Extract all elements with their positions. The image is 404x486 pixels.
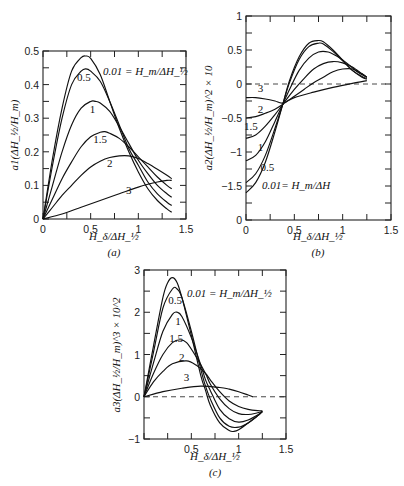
y-axis-label: a2(ΔH_½/H_m)^2 × 10 — [202, 65, 215, 170]
curve-label: 1.5 — [93, 133, 107, 145]
y-tick-label: 0 — [33, 213, 39, 225]
y-tick-label: −1 — [128, 433, 140, 445]
curve-label: 3 — [258, 82, 264, 94]
series-curve-1.5 — [43, 132, 172, 219]
y-tick-label: 0.5 — [227, 44, 242, 56]
y-tick-label: 0 — [134, 391, 140, 403]
curve-label: 1.5 — [169, 332, 183, 344]
panel-b: 00.511.510.50−0.5−1−1.50321.510.50.01= H… — [202, 10, 398, 259]
curve-label: 0.5 — [168, 294, 182, 306]
series-curve-3 — [144, 386, 253, 397]
y-tick-label: 1 — [134, 349, 140, 361]
x-tick-label: 1.5 — [384, 224, 399, 236]
y-tick-label: 0 — [236, 214, 242, 226]
panel-caption: (a) — [108, 246, 121, 259]
legend-annotation: 0.01 = H_m/ΔH_½ — [103, 65, 188, 77]
y-tick-label: 0.2 — [24, 146, 39, 158]
figure: 00.511.500.10.20.30.40.50.511.5230.01 = … — [0, 0, 404, 486]
curve-label: 2 — [107, 157, 113, 169]
y-tick-label: 1 — [236, 10, 242, 22]
x-tick-label: 0 — [243, 224, 249, 236]
x-axis-label: H_δ/ΔH_½ — [189, 450, 240, 462]
x-tick-label: 1.5 — [179, 223, 194, 235]
series-curve-3 — [43, 180, 172, 219]
curve-label: 1 — [175, 315, 181, 327]
x-tick-label: 0 — [40, 223, 46, 235]
curve-label: 0.5 — [260, 161, 274, 173]
curve-label: 3 — [184, 371, 190, 383]
curve-label: 2 — [258, 103, 264, 115]
panel-caption: (c) — [209, 466, 222, 479]
y-tick-label: 0.3 — [24, 112, 39, 124]
y-axis-label: a3(ΔH_½/H_m)^3 × 10^2 — [110, 297, 123, 413]
legend-annotation: 0.01 = H_m/ΔH_½ — [187, 287, 272, 299]
y-tick-label: −1.5 — [221, 180, 242, 192]
series-curve-1 — [144, 312, 262, 422]
y-tick-label: 0.4 — [24, 79, 39, 91]
legend-annotation: 0.01= H_m/ΔH — [262, 179, 331, 191]
panel-caption: (b) — [312, 246, 325, 259]
curve-label: 1 — [258, 141, 264, 153]
curve-label: 1.5 — [244, 120, 258, 132]
x-axis-label: H_δ/ΔH_½ — [88, 230, 139, 242]
y-axis-label: a1(ΔH_½/H_m) — [8, 99, 21, 170]
x-tick-label: 1.5 — [279, 443, 294, 455]
y-tick-label: 0.1 — [24, 179, 39, 191]
y-tick-label: −0.5 — [221, 112, 242, 124]
panel-c: 0.511.5−101230.511.5230.01 = H_m/ΔH_½H_δ… — [110, 264, 293, 479]
y-tick-label: 3 — [134, 264, 140, 276]
panel-a: 00.511.500.10.20.30.40.50.511.5230.01 = … — [8, 45, 193, 259]
series-curve-0.5 — [43, 69, 172, 219]
y-tick-label: 0 — [236, 78, 242, 90]
series-curve-1.5 — [246, 62, 367, 139]
y-tick-label: 2 — [134, 306, 140, 318]
y-tick-label: 0.5 — [24, 45, 39, 57]
curve-label: 3 — [126, 184, 132, 196]
x-axis-label: H_δ/ΔH_½ — [292, 230, 343, 242]
curve-label: 0.5 — [77, 71, 91, 83]
curve-label: 1 — [90, 103, 96, 115]
curve-label: 2 — [179, 351, 185, 363]
y-tick-label: −1 — [230, 146, 242, 158]
